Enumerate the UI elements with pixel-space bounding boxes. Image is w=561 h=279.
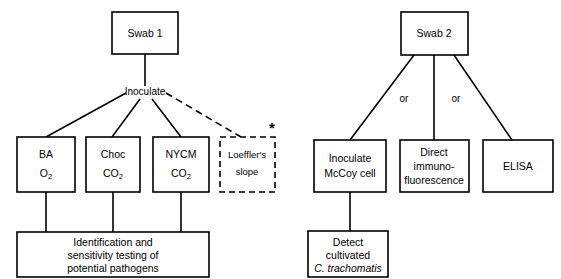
connector-inoculate-to-nycm <box>152 99 181 137</box>
node-ba-rect <box>17 137 75 192</box>
node-direct-immunofluorescence-line2: immuno- <box>414 160 455 172</box>
node-direct-immunofluorescence-line3: fluorescence <box>404 174 464 186</box>
node-swab-1-label: Swab 1 <box>127 27 162 39</box>
node-swab-2-label: Swab 2 <box>416 27 451 39</box>
node-identification-outcome-line1: Identification and <box>73 236 153 248</box>
node-direct-immunofluorescence-line1: Direct <box>420 146 448 158</box>
node-loefflers-slope-label-line1: Loeffler's <box>228 149 266 160</box>
node-swab-2: Swab 2 <box>401 12 468 55</box>
node-identification-outcome-line2: sensitivity testing of <box>67 249 158 261</box>
node-identification-outcome-line3: potential pathogens <box>67 262 159 274</box>
edge-label-or-left: or <box>400 93 410 104</box>
node-detect-cultivated-line3-species: C. trachomatis <box>314 262 382 274</box>
edge-label-inoculate: Inoculate <box>125 86 166 97</box>
node-ba: BA O2 <box>17 137 75 192</box>
node-choc-rect <box>86 137 140 192</box>
flowchart-canvas: Swab 1 Inoculate BA O2 Choc CO2 NYCM CO2 <box>0 0 561 279</box>
flowchart-diagram: Swab 1 Inoculate BA O2 Choc CO2 NYCM CO2 <box>0 0 561 279</box>
node-elisa: ELISA <box>483 140 553 192</box>
node-inoculate-mccoy-cell-line1: Inoculate <box>329 152 372 164</box>
node-identification-outcome: Identification and sensitivity testing o… <box>17 232 209 277</box>
node-direct-immunofluorescence: Direct immuno- fluorescence <box>400 140 469 192</box>
connector-inoculate-to-choc <box>112 99 140 137</box>
connector-inoculate-to-ba <box>46 93 126 137</box>
node-detect-cultivated-line2: cultivated <box>326 249 371 261</box>
connector-inoculate-to-loefflers <box>166 93 241 137</box>
node-detect-cultivated-line1: Detect <box>333 236 363 248</box>
node-elisa-label: ELISA <box>503 160 533 172</box>
node-choc: Choc CO2 <box>86 137 140 192</box>
node-loefflers-slope-label-line2: slope <box>236 166 259 177</box>
node-nycm-label-line1: NYCM <box>166 148 197 160</box>
node-choc-label-line1: Choc <box>101 148 126 160</box>
node-choc-gas-base: CO <box>103 167 119 179</box>
node-nycm-gas-subscript: 2 <box>187 172 191 181</box>
node-inoculate-mccoy-cell: Inoculate McCoy cell <box>314 140 386 192</box>
connector-swab2-to-elisa <box>454 55 512 140</box>
node-swab-1: Swab 1 <box>112 12 178 54</box>
node-choc-gas-subscript: 2 <box>119 172 123 181</box>
node-ba-gas-base: O <box>40 167 48 179</box>
node-nycm: NYCM CO2 <box>153 137 209 192</box>
node-detect-cultivated: Detect cultivated C. trachomatis <box>308 231 388 277</box>
node-nycm-gas-base: CO <box>171 167 187 179</box>
node-ba-gas-subscript: 2 <box>48 172 52 181</box>
node-inoculate-mccoy-cell-line2: McCoy cell <box>324 167 375 179</box>
node-loefflers-slope-rect <box>220 137 275 192</box>
node-nycm-rect <box>153 137 209 192</box>
footnote-asterisk-marker: * <box>269 119 275 136</box>
edge-label-or-right: or <box>452 93 462 104</box>
node-ba-label-line1: BA <box>39 148 53 160</box>
